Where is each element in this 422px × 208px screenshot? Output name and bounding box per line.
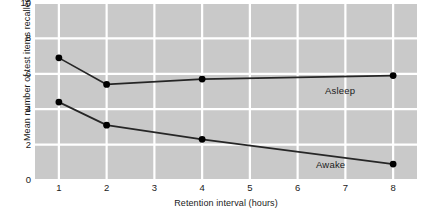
x-tick-5: 5: [235, 183, 265, 193]
y-tick-8: 8: [1, 33, 31, 43]
series-label-awake: Awake: [316, 159, 345, 170]
plot-svg: [35, 3, 417, 180]
plot-area: [35, 3, 417, 180]
x-tick-1: 1: [44, 183, 74, 193]
x-axis-tick-labels: 12345678: [0, 183, 422, 197]
chart-figure: Mean number of test items recalled 02468…: [0, 0, 422, 208]
x-tick-3: 3: [139, 183, 169, 193]
horizontal-gridlines: [35, 3, 417, 180]
y-tick-4: 4: [1, 104, 31, 114]
series-label-asleep: Asleep: [325, 85, 355, 96]
x-tick-8: 8: [378, 183, 408, 193]
x-axis-label: Retention interval (hours): [35, 198, 417, 208]
y-tick-10: 10: [1, 0, 31, 8]
data-point-awake-4: [199, 136, 206, 143]
data-point-awake-2: [103, 122, 110, 129]
data-point-awake-8: [390, 161, 397, 168]
data-point-asleep-1: [55, 54, 62, 61]
x-tick-2: 2: [92, 183, 122, 193]
series-line-asleep: [59, 58, 393, 85]
data-point-asleep-8: [390, 72, 397, 79]
series-line-awake: [59, 102, 393, 164]
data-point-asleep-4: [199, 76, 206, 83]
x-tick-6: 6: [283, 183, 313, 193]
x-tick-7: 7: [330, 183, 360, 193]
data-point-awake-1: [55, 99, 62, 106]
y-tick-2: 2: [1, 140, 31, 150]
y-tick-6: 6: [1, 69, 31, 79]
x-tick-4: 4: [187, 183, 217, 193]
data-point-asleep-2: [103, 81, 110, 88]
y-axis-tick-labels: 0246810: [0, 0, 31, 208]
